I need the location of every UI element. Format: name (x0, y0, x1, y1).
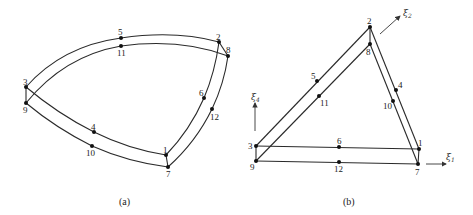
node-b-7 (416, 162, 420, 166)
node-a-label-7: 7 (166, 169, 171, 179)
node-b-label-1: 1 (418, 138, 423, 148)
caption-b: (b) (343, 196, 355, 208)
node-a-label-6: 6 (199, 88, 204, 98)
node-b-label-11: 11 (320, 98, 329, 108)
node-a-label-8: 8 (226, 45, 231, 55)
axis-xi1-label: ξ1 (446, 152, 455, 163)
node-b-label-7: 7 (415, 167, 420, 177)
node-a-label-12: 12 (210, 112, 219, 122)
node-a-label-10: 10 (86, 148, 96, 158)
edge-1-7 (418, 149, 419, 164)
node-a-12 (210, 107, 214, 111)
node-a-label-1: 1 (163, 145, 168, 155)
node-a-label-4: 4 (91, 122, 96, 132)
node-b-3 (254, 144, 258, 148)
node-b-label-4: 4 (398, 80, 403, 90)
node-b-label-2: 2 (367, 16, 372, 26)
edge-3-5-2 (256, 27, 370, 146)
node-a-label-5: 5 (118, 27, 123, 37)
node-b-label-8: 8 (366, 47, 371, 57)
node-a-label-2: 2 (216, 32, 221, 42)
edge-3-4-1 (26, 87, 166, 155)
node-b-label-5: 5 (311, 71, 316, 81)
node-b-label-3: 3 (248, 141, 253, 151)
node-a-label-9: 9 (23, 105, 28, 115)
node-b-8 (368, 42, 372, 46)
caption-a: (a) (119, 196, 130, 208)
figure: 1 2 3 4 5 6 7 8 9 10 11 12 (a) (0, 0, 473, 215)
edge-9-11-8 (256, 44, 370, 161)
edge-8-10-7 (370, 44, 418, 164)
node-b-label-10: 10 (383, 101, 393, 111)
edge-9-10-7 (26, 103, 168, 167)
edge-2-4-1 (370, 27, 419, 149)
panel-b: 1 2 3 4 5 6 7 8 9 10 11 12 ξ4 ξ2 ξ1 (b) (248, 8, 455, 208)
node-b-label-6: 6 (337, 136, 342, 146)
panel-a: 1 2 3 4 5 6 7 8 9 10 11 12 (a) (23, 27, 231, 208)
edge-9-11-8 (26, 44, 228, 103)
axis-xi2-arrow (380, 16, 400, 34)
node-b-5 (315, 79, 319, 83)
node-b-label-12: 12 (334, 164, 343, 174)
node-a-label-11: 11 (117, 48, 126, 58)
axis-xi2-label: ξ2 (403, 8, 412, 19)
node-b-label-9: 9 (250, 162, 255, 172)
node-b-9 (254, 159, 258, 163)
edge-2-6-1 (166, 42, 219, 155)
node-a-label-3: 3 (23, 77, 28, 87)
edge-3-5-2 (26, 35, 219, 87)
axis-xi4-label: ξ4 (251, 92, 260, 103)
